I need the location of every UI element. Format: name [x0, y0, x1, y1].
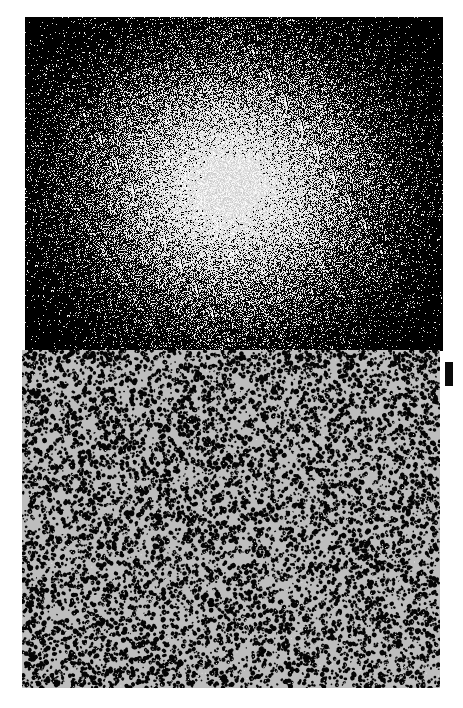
gaussian-noise-image — [25, 17, 443, 351]
speckle-noise-image — [22, 350, 440, 688]
side-marker — [445, 362, 453, 386]
speckle-noise-panel — [22, 350, 440, 688]
gaussian-noise-panel — [25, 17, 443, 351]
